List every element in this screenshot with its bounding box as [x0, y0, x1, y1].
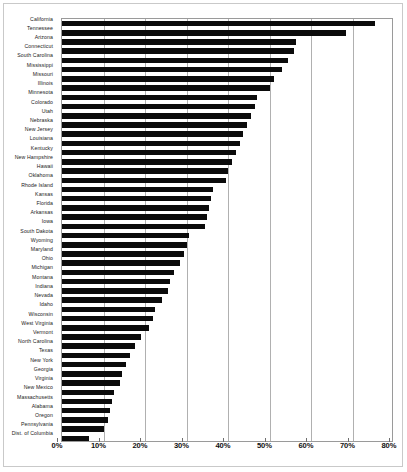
bar: [62, 251, 184, 257]
category-label: Minnesota: [28, 89, 53, 95]
bar: [62, 76, 274, 82]
x-tick-label: 70%: [340, 441, 355, 450]
bar: [62, 316, 153, 322]
tickmark: [140, 438, 141, 442]
category-label: Georgia: [34, 366, 53, 372]
x-tick-label: 20%: [132, 441, 147, 450]
category-label: Texas: [39, 347, 53, 353]
bar: [62, 325, 149, 331]
category-label: Idaho: [39, 301, 53, 307]
category-label: West Virginia: [21, 320, 53, 326]
bar: [62, 30, 346, 36]
category-label: Colorado: [31, 99, 53, 105]
figure-frame: [3, 3, 403, 467]
tickmark: [265, 438, 266, 442]
x-tick-label: 60%: [298, 441, 313, 450]
x-tick-label: 10%: [91, 441, 106, 450]
category-axis-labels: CaliforniaTennesseeArizonaConnecticutSou…: [0, 14, 55, 438]
bar: [62, 141, 240, 147]
bar: [62, 187, 213, 193]
category-label: New Hampshire: [15, 154, 53, 160]
bar: [62, 48, 294, 54]
category-label: Montana: [32, 274, 53, 280]
bar: [62, 196, 211, 202]
x-tick-label: 40%: [215, 441, 230, 450]
bar: [62, 270, 174, 276]
category-label: New York: [30, 357, 53, 363]
bar: [62, 168, 228, 174]
category-label: Arizona: [35, 34, 53, 40]
category-label: Kentucky: [31, 145, 53, 151]
category-label: California: [30, 16, 53, 22]
category-label: Virginia: [35, 375, 53, 381]
category-label: Louisiana: [30, 135, 53, 141]
bar: [62, 408, 110, 414]
bar: [62, 353, 130, 359]
bar: [62, 343, 135, 349]
category-label: South Dakota: [20, 228, 53, 234]
bar: [62, 224, 205, 230]
category-label: Dist. of Columbia: [12, 430, 53, 436]
bar: [62, 417, 108, 423]
bar: [62, 131, 243, 137]
bar: [62, 297, 162, 303]
bar: [62, 334, 141, 340]
category-label: Oklahoma: [29, 172, 53, 178]
tickmark: [182, 438, 183, 442]
category-label: Arkansas: [31, 209, 53, 215]
category-label: Vermont: [33, 329, 53, 335]
x-axis-tick-labels: 0%10%20%30%40%50%60%70%80%: [0, 441, 407, 459]
category-label: Iowa: [42, 218, 53, 224]
bar: [62, 362, 126, 368]
category-label: Tennessee: [27, 25, 53, 31]
bar: [62, 380, 120, 386]
x-tick-label: 50%: [257, 441, 272, 450]
category-label: Wisconsin: [28, 311, 53, 317]
category-label: Michigan: [31, 264, 53, 270]
bar: [62, 58, 288, 64]
bar: [62, 159, 232, 165]
category-label: New Jersey: [25, 126, 53, 132]
category-label: Utah: [42, 108, 53, 114]
bar: [62, 242, 187, 248]
bar: [62, 122, 247, 128]
bar: [62, 260, 180, 266]
bar: [62, 104, 255, 110]
category-label: Hawaii: [37, 163, 53, 169]
category-label: Illinois: [38, 80, 53, 86]
bar: [62, 205, 209, 211]
category-label: Indiana: [35, 283, 53, 289]
bar: [62, 67, 282, 73]
bar: [62, 371, 122, 377]
category-label: Connecticut: [24, 43, 53, 49]
category-label: Oregon: [35, 412, 53, 418]
chart-page: CaliforniaTennesseeArizonaConnecticutSou…: [0, 0, 407, 472]
category-label: Florida: [36, 200, 53, 206]
tickmark: [389, 438, 390, 442]
category-label: Ohio: [42, 255, 53, 261]
bar: [62, 426, 104, 432]
category-label: North Carolina: [18, 338, 53, 344]
category-label: Nevada: [34, 292, 53, 298]
bar: [62, 150, 236, 156]
category-label: Nebraska: [30, 117, 53, 123]
category-label: Missouri: [33, 71, 53, 77]
plot-area: [61, 18, 393, 442]
bar: [62, 214, 207, 220]
category-label: South Carolina: [17, 52, 53, 58]
x-tick-label: 0%: [52, 441, 63, 450]
bar: [62, 279, 170, 285]
category-label: Kansas: [35, 191, 53, 197]
tickmark: [57, 438, 58, 442]
bar: [62, 95, 257, 101]
tickmark: [306, 438, 307, 442]
tickmark: [99, 438, 100, 442]
category-label: Maryland: [31, 246, 53, 252]
bar: [62, 399, 112, 405]
category-label: Pennsylvania: [21, 421, 53, 427]
x-tick-label: 80%: [381, 441, 396, 450]
bar: [62, 39, 296, 45]
bar: [62, 178, 226, 184]
category-label: Alabama: [32, 403, 53, 409]
bar: [62, 113, 251, 119]
